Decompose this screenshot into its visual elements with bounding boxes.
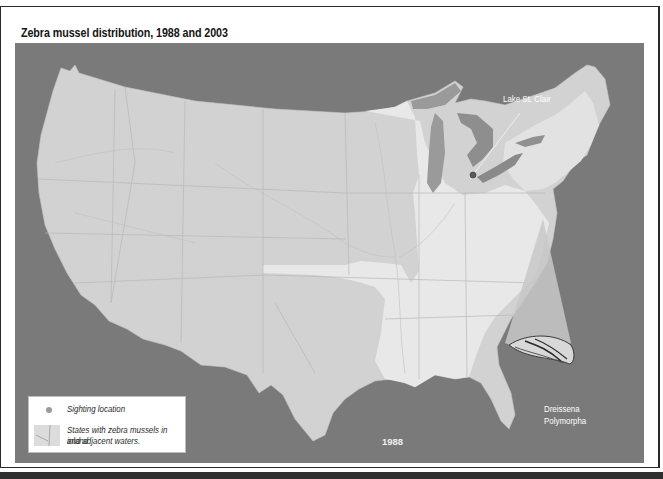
sighting-dot-icon (46, 407, 52, 413)
figure-title: Zebra mussel distribution, 1988 and 2003 (21, 26, 228, 40)
legend-states-label-line2: and adjacent waters. (67, 436, 140, 447)
year-label: 1988 (382, 436, 403, 447)
state-swatch-icon (34, 425, 60, 446)
species-label-line2: Polymorpha (544, 416, 586, 427)
legend-sighting-label: Sighting location (67, 404, 125, 415)
page-bottom-rule (0, 472, 663, 479)
map-legend: Sighting location States with zebra muss… (28, 396, 186, 453)
sighting-location-marker (470, 172, 476, 178)
lake-st-clair-label: Lake St. Clair (503, 94, 551, 105)
species-label-line1: Dreissena (544, 404, 580, 415)
